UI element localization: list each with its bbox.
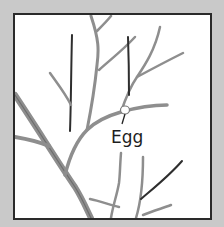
egg-icon — [121, 106, 130, 114]
label-leader-line — [122, 114, 125, 124]
dark-twig-left — [70, 35, 72, 131]
dark-twig-bottom — [141, 161, 182, 199]
illustration-panel: Egg — [13, 13, 212, 220]
main-trunk — [15, 95, 91, 218]
branches-drawing — [15, 15, 210, 218]
upper-stem — [87, 16, 98, 130]
egg-label: Egg — [111, 127, 143, 147]
dark-twig-right — [128, 37, 129, 95]
